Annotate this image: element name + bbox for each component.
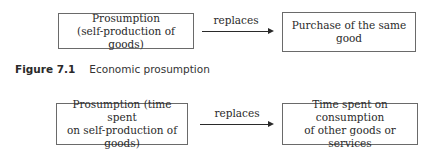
consumption-time-box: Time spent on consumption of other goods… [282,103,418,145]
replaces-arrow-icon [202,31,272,32]
prosumption-box: Prosumption (self-production of goods) [58,13,194,49]
prosumption-time-box-line2: on self-production of goods) [61,124,183,150]
figure-caption: Figure 7.1Economic prosumption [15,63,210,75]
consumption-time-box-line1: Time spent on consumption [287,98,413,124]
prosumption-time-box-line1: Prosumption (time spent [61,98,183,124]
figure-title: Economic prosumption [89,63,209,75]
consumption-time-box-line2: of other goods or services [287,124,413,150]
replaces-arrow-icon-2 [200,124,272,125]
replaces-label: replaces [196,14,276,26]
purchase-box-text: Purchase of the same good [287,19,411,45]
figure-number: Figure 7.1 [15,63,75,75]
prosumption-box-line1: Prosumption [63,12,189,25]
purchase-box: Purchase of the same good [282,12,416,52]
prosumption-time-box: Prosumption (time spent on self-producti… [56,103,188,145]
replaces-label-2: replaces [197,107,277,119]
prosumption-box-line2: (self-production of goods) [63,25,189,51]
